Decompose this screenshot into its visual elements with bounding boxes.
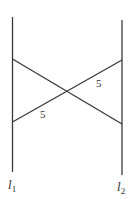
lower-segment-length-label: 5: [40, 108, 46, 120]
parallel-lines-crossing-diagram: 5 5 l1 l2: [0, 0, 132, 199]
label-l1: l1: [8, 177, 16, 194]
label-l2: l2: [117, 179, 125, 196]
upper-segment-length-label: 5: [96, 77, 102, 89]
